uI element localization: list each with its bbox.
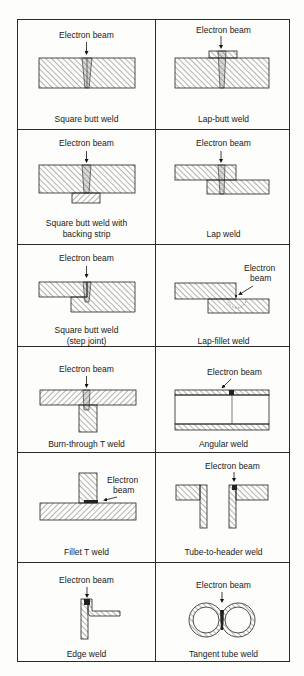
caption: Burn-through T weld [18, 439, 155, 449]
cell-fillet-t-weld: Electron beam Fillet T weld [18, 453, 155, 562]
cell-tangent-tube-weld: Electron beam Tangent tube weld [156, 563, 291, 663]
fillet-t-weld-diagram [18, 453, 155, 562]
cell-square-butt-weld-backing-strip: Electron beam Square butt weld with back… [18, 130, 155, 244]
edge-weld-diagram [18, 563, 155, 663]
caption: Square butt weld [18, 114, 155, 124]
lap-fillet-weld-diagram [156, 245, 291, 346]
caption: Lap-butt weld [156, 114, 291, 124]
cell-square-butt-weld-step-joint: Electron beam Square butt weld (step joi… [18, 245, 155, 346]
caption-line-1: Square butt weld with [18, 218, 155, 228]
burn-through-t-weld-diagram [18, 347, 155, 452]
caption: Lap weld [156, 229, 291, 239]
angular-weld-diagram [156, 347, 291, 452]
weld-types-table: Electron beam Square butt weld Electron … [17, 19, 290, 662]
caption-line-2: (step joint) [18, 336, 155, 346]
tube-to-header-weld-diagram [156, 453, 291, 562]
cell-tube-to-header-weld: Electron beam Tube-to-header weld [156, 453, 291, 562]
caption: Tangent tube weld [156, 649, 291, 659]
cell-angular-weld: Electron beam Angular weld [156, 347, 291, 452]
lap-butt-weld-diagram [156, 20, 291, 129]
caption: Angular weld [156, 439, 291, 449]
caption: Tube-to-header weld [156, 547, 291, 557]
cell-edge-weld: Electron beam Edge weld [18, 563, 155, 663]
cell-square-butt-weld: Electron beam Square butt weld [18, 20, 155, 129]
caption-line-2: backing strip [18, 229, 155, 239]
lap-weld-diagram [156, 130, 291, 244]
caption: Edge weld [18, 649, 155, 659]
cell-burn-through-t-weld: Electron beam Burn-through T weld [18, 347, 155, 452]
square-butt-weld-diagram [18, 20, 155, 129]
cell-lap-fillet-weld: Electron beam Lap-fillet weld [156, 245, 291, 346]
cell-lap-weld: Electron beam Lap weld [156, 130, 291, 244]
caption: Fillet T weld [18, 547, 155, 557]
cell-lap-butt-weld: Electron beam Lap-butt weld [156, 20, 291, 129]
tangent-tube-weld-diagram [156, 563, 291, 663]
caption-line-1: Square butt weld [18, 325, 155, 335]
caption: Lap-fillet weld [156, 336, 291, 346]
